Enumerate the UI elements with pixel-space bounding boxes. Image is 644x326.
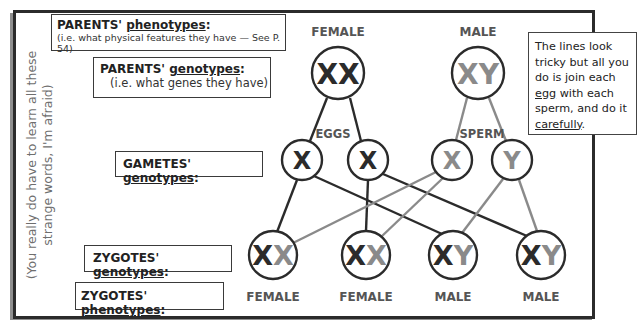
parent-male-genotype: XY [457, 58, 500, 91]
note-carefully: carefully [535, 118, 582, 131]
gamete-sperm-x-allele: X [443, 147, 462, 175]
eggs-label: EGGS [315, 127, 350, 141]
note-egg: egg [535, 87, 556, 100]
link-female-egg2 [350, 98, 361, 141]
parent-male-phenotype: MALE [459, 25, 496, 39]
zygote2-genotype: XX [345, 240, 387, 271]
link-egg1-zygote3 [314, 176, 442, 234]
zygote3-genotype: XY [433, 240, 474, 271]
gamete-sperm-y-allele: Y [502, 147, 521, 175]
parent-female-genotype: XX [316, 58, 360, 91]
note-end: . [582, 118, 586, 131]
zygote4-genotype: XY [521, 240, 562, 271]
link-spermy-zygote3 [462, 179, 503, 233]
zygote1-genotype: XX [252, 240, 294, 271]
note-text-1: The lines look tricky but all you do is … [535, 40, 629, 84]
link-spermy-zygote4 [519, 180, 537, 231]
gamete-egg2-allele: X [359, 147, 378, 175]
link-egg1-zygote1 [277, 180, 297, 232]
link-egg2-zygote4 [383, 174, 527, 236]
zygote1-phenotype: FEMALE [246, 290, 299, 304]
explanation-note: The lines look tricky but all you do is … [528, 32, 637, 135]
parent-female-phenotype: FEMALE [311, 25, 364, 39]
zygote2-phenotype: FEMALE [339, 290, 392, 304]
zygote3-phenotype: MALE [434, 290, 471, 304]
zygote4-phenotype: MALE [522, 290, 559, 304]
sperm-label: SPERM [460, 127, 505, 141]
gamete-egg1-allele: X [293, 147, 312, 175]
